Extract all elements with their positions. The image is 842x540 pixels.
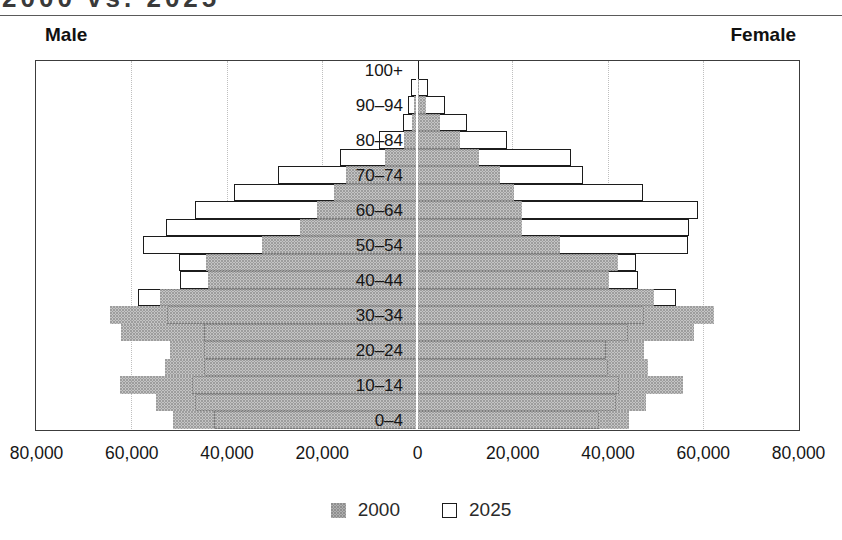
bar-2000-female-55–59 [417,219,522,237]
pyramid-plot-inner: 100+90–9480–8470–7460–6450–5440–4430–342… [36,61,798,429]
horizontal-rule [0,15,842,16]
bar-2000-female-70–74 [417,166,500,184]
bar-2000-male-25–29 [121,324,417,342]
female-side-header: Female [731,24,796,46]
x-tick-label-1: 60,000 [87,443,177,464]
bar-2000-male-55–59 [300,219,417,237]
legend-swatch-2000-gray [331,503,346,518]
bar-2000-female-35–39 [417,289,654,307]
legend-swatch-2025-white [442,503,457,518]
bar-2000-female-10–14 [417,376,683,394]
center-axis-line [416,61,418,429]
age-label-50–54: 50–54 [356,237,403,255]
bar-2000-female-65–69 [417,184,514,202]
bar-2000-female-80–84 [417,131,460,149]
age-label-0–4: 0–4 [375,412,403,430]
male-side-header: Male [45,24,87,46]
bar-2000-male-45–49 [206,254,417,272]
bar-2000-female-30–34 [417,306,714,324]
bar-2000-male-65–69 [334,184,417,202]
age-label-100+: 100+ [365,62,403,80]
legend-item-2025: 2025 [442,499,511,521]
pyramid-plot-area: 100+90–9480–8470–7460–6450–5440–4430–342… [35,60,800,431]
bar-2000-female-50–54 [417,236,560,254]
bar-2000-female-20–24 [417,341,644,359]
chart-legend: 2000 2025 [0,499,842,521]
clipped-page-title: 2000 vs. 2025 [2,0,422,9]
bar-2000-female-25–29 [417,324,694,342]
legend-item-2000: 2000 [331,499,400,521]
bar-2000-female-90–94 [417,96,426,114]
age-label-80–84: 80–84 [356,132,403,150]
age-label-40–44: 40–44 [356,272,403,290]
bar-2000-female-5–9 [417,394,646,412]
bar-2000-female-60–64 [417,201,522,219]
gridline--60000 [131,61,132,429]
bar-2000-male-75–79 [385,149,417,167]
x-tick-label-6: 40,000 [563,443,653,464]
x-tick-label-2: 40,000 [182,443,272,464]
legend-label-2000: 2000 [358,499,400,521]
bar-2000-male-5–9 [156,394,417,412]
x-tick-label-5: 20,000 [468,443,558,464]
bar-2000-female-40–44 [417,271,609,289]
age-label-30–34: 30–34 [356,307,403,325]
age-label-60–64: 60–64 [356,202,403,220]
x-tick-label-4: 0 [373,443,463,464]
bar-2000-male-15–19 [165,359,417,377]
bar-2000-female-85–89 [417,114,440,132]
age-label-10–14: 10–14 [356,377,403,395]
bar-2000-female-45–49 [417,254,618,272]
x-tick-label-8: 80,000 [754,443,842,464]
x-tick-label-7: 60,000 [658,443,748,464]
x-tick-label-0: 80,000 [0,443,82,464]
age-label-90–94: 90–94 [356,97,403,115]
x-tick-label-3: 20,000 [277,443,367,464]
bar-2000-female-75–79 [417,149,479,167]
bar-2000-female-0–4 [417,411,629,429]
bar-2000-male-35–39 [160,289,417,307]
legend-label-2025: 2025 [469,499,511,521]
bar-2000-female-15–19 [417,359,648,377]
page-title-fragment: 2000 vs. 2025 [2,0,422,9]
age-label-20–24: 20–24 [356,342,403,360]
gridline-60000 [703,61,704,429]
age-label-70–74: 70–74 [356,167,403,185]
